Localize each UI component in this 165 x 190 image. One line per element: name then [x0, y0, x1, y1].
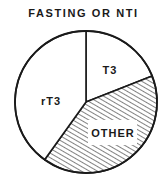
- label-t3: T3: [103, 64, 118, 76]
- pie-svg: T3 OTHER rT3: [0, 0, 165, 190]
- label-rt3: rT3: [41, 95, 61, 107]
- label-other: OTHER: [91, 127, 135, 139]
- pie-chart: FASTING OR NTI T3 OTHER rT3: [0, 0, 165, 190]
